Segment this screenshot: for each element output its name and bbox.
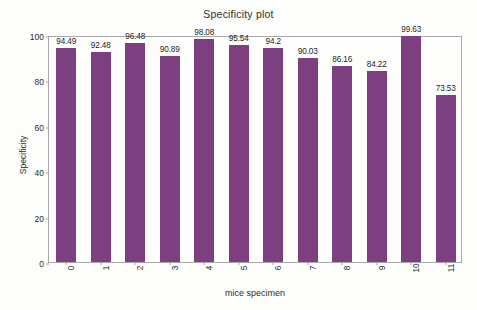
bar-value-label: 90.89 [160,45,180,54]
y-axis-tick-label: 60 [35,123,44,133]
bar-value-label: 98.08 [194,28,214,37]
x-axis-tick-label: 5 [239,266,249,271]
bar[interactable] [436,95,456,262]
plot-area: 02040608010094.49092.48196.48290.89398.0… [48,36,462,263]
x-axis-tick-label: 8 [342,266,352,271]
bar-group[interactable]: 84.229 [367,35,387,262]
bar-value-label: 84.22 [367,60,387,69]
y-axis-tick-label: 80 [35,77,44,87]
x-axis-label: mice specimen [48,288,462,298]
bar-value-label: 94.49 [56,37,76,46]
x-axis-tick-label: 1 [101,266,111,271]
x-axis-tick-label: 6 [273,266,283,271]
x-axis-tick-label: 0 [66,266,76,271]
bar[interactable] [367,71,387,262]
bar-group[interactable]: 99.6310 [401,35,421,262]
x-axis-tick-label: 10 [411,263,421,272]
bar-group[interactable]: 98.084 [194,35,214,262]
y-axis-tick-mark [46,82,49,83]
bar-value-label: 90.03 [298,47,318,56]
bar[interactable] [91,52,111,262]
specificity-bar-chart: Specificity plot Specificity 02040608010… [0,0,477,310]
bar-group[interactable]: 94.26 [263,35,283,262]
bar-value-label: 96.48 [125,32,145,41]
plot-inner: 02040608010094.49092.48196.48290.89398.0… [49,37,461,262]
y-axis-tick-mark [46,264,49,265]
bar[interactable] [125,43,145,262]
bar[interactable] [56,48,76,262]
bar-group[interactable]: 96.482 [125,35,145,262]
bar-value-label: 95.54 [229,34,249,43]
bar[interactable] [332,66,352,262]
y-axis-tick-mark [46,173,49,174]
bar-value-label: 86.16 [332,55,352,64]
x-axis-tick-label: 7 [308,266,318,271]
bar[interactable] [298,58,318,262]
bar[interactable] [160,56,180,262]
chart-title: Specificity plot [0,8,477,20]
y-axis-tick-label: 20 [35,214,44,224]
bar-value-label: 92.48 [91,41,111,50]
y-axis-tick-label: 40 [35,168,44,178]
y-axis-tick-mark [46,127,49,128]
bar[interactable] [229,45,249,262]
bar-group[interactable]: 90.037 [298,35,318,262]
bar-group[interactable]: 94.490 [56,35,76,262]
x-axis-tick-label: 3 [170,266,180,271]
y-axis-tick-mark [46,37,49,38]
x-axis-tick-label: 11 [446,264,456,273]
y-axis-tick-mark [46,218,49,219]
x-axis-tick-label: 4 [204,266,214,271]
bar-group[interactable]: 95.545 [229,35,249,262]
y-axis-tick-label: 0 [39,259,44,269]
x-axis-tick-label: 9 [377,266,387,271]
bar-value-label: 94.2 [265,37,281,46]
bar[interactable] [263,48,283,262]
bar-group[interactable]: 92.481 [91,35,111,262]
x-axis-tick-label: 2 [135,266,145,271]
bar[interactable] [194,39,214,262]
bar-group[interactable]: 86.168 [332,35,352,262]
bar-value-label: 99.63 [401,25,421,34]
y-axis-tick-label: 100 [30,32,44,42]
bar[interactable] [401,36,421,262]
bar-group[interactable]: 90.893 [160,35,180,262]
y-axis-label: Specificity [18,136,28,175]
bar-group[interactable]: 73.5311 [436,35,456,262]
bar-value-label: 73.53 [436,84,456,93]
